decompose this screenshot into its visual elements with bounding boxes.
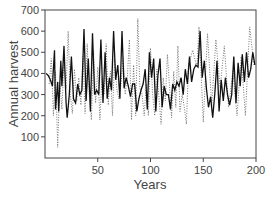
y-tick-label: 300 [21, 89, 39, 101]
x-axis-label: Years [134, 177, 167, 192]
dotted-series-line [49, 19, 254, 148]
y-tick-label: 200 [21, 110, 39, 122]
x-tick-label: 100 [141, 164, 159, 176]
y-axis-ticks: 100200300400500600700 [21, 4, 45, 143]
x-axis-ticks: 50100150200 [92, 158, 266, 176]
x-tick-label: 50 [92, 164, 104, 176]
y-tick-label: 100 [21, 131, 39, 143]
y-tick-label: 700 [21, 4, 39, 16]
y-tick-label: 600 [21, 25, 39, 37]
y-tick-label: 400 [21, 67, 39, 79]
line-chart: 100200300400500600700 50100150200 Years … [0, 0, 273, 197]
y-tick-label: 500 [21, 46, 39, 58]
x-tick-label: 200 [247, 164, 265, 176]
y-axis-label: Annual harvest [6, 40, 21, 127]
solid-series-line [46, 29, 255, 118]
x-tick-label: 150 [194, 164, 212, 176]
